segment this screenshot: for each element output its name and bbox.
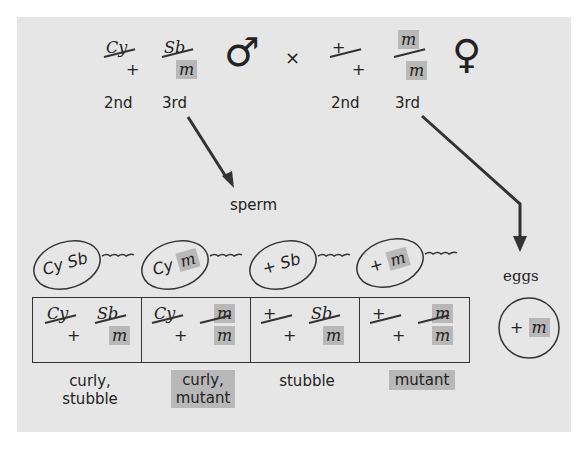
egg-plus-m: + m xyxy=(510,318,550,337)
phenotype-text: stubble xyxy=(60,390,120,408)
allele: + xyxy=(67,326,80,345)
allele-highlighted: m xyxy=(432,304,453,323)
sperm-arrow-icon xyxy=(188,117,228,180)
allele-highlighted: m xyxy=(214,304,235,323)
phenotype-text: mutant xyxy=(175,389,231,407)
offspring-cell-4: ++ mm xyxy=(360,298,468,362)
allele-highlighted: m xyxy=(109,326,130,345)
offspring-table: Cy+ Sbm Cy+ mm ++ Sbm ++ mm xyxy=(32,297,470,363)
offspring-cell-1: Cy+ Sbm xyxy=(33,298,142,362)
eggs-label: eggs xyxy=(503,267,539,285)
allele: + xyxy=(510,318,523,337)
phenotype-mutant: mutant xyxy=(389,370,455,390)
allele: + xyxy=(174,326,187,345)
offspring-cell-2: Cy+ mm xyxy=(142,298,251,362)
phenotype-text: curly, xyxy=(60,372,120,390)
phenotype-text: stubble xyxy=(277,372,337,390)
allele-highlighted: m xyxy=(323,326,344,345)
phenotype-stubble: stubble xyxy=(277,372,337,390)
egg-arrow-icon xyxy=(422,116,520,240)
allele-highlighted: m xyxy=(214,326,235,345)
allele: + xyxy=(392,326,405,345)
offspring-cell-3: ++ Sbm xyxy=(251,298,360,362)
phenotype-curly-mutant: curly, mutant xyxy=(171,370,235,408)
allele-highlighted: m xyxy=(432,326,453,345)
phenotype-text: curly, xyxy=(175,371,231,389)
allele-highlighted: m xyxy=(529,318,550,337)
sperm-label: sperm xyxy=(230,196,277,214)
phenotype-curly-stubble: curly, stubble xyxy=(60,372,120,408)
phenotype-text: mutant xyxy=(393,371,451,389)
allele: + xyxy=(283,326,296,345)
